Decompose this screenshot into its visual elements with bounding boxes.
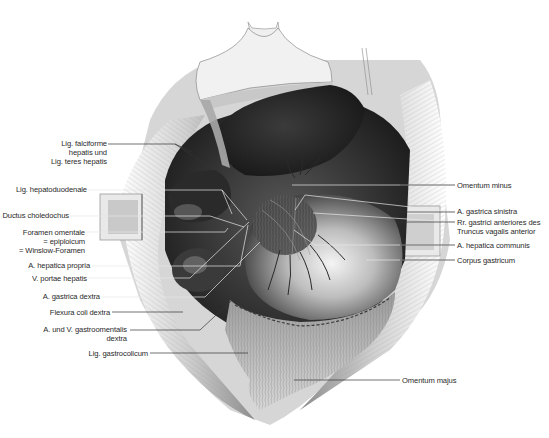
label-omentum-minus: Omentum minus [457,181,511,190]
label-a-hepatica-propria: A. hepatica propria [2,261,90,270]
label-line: = Winslow-Foramen [2,246,85,255]
label-line: Foramen omentale [2,228,85,237]
label-line: A. hepatica propria [2,261,90,270]
retractor-left [100,194,142,240]
label-foramen-omentale: Foramen omentale = epiploicum = Winslow-… [2,228,85,256]
label-v-portae-hepatis: V. portae hepatis [2,274,87,283]
label-omentum-majus: Omentum majus [402,376,456,385]
label-line: A. gastrica sinistra [457,207,517,216]
anatomical-figure: Lig. falciforme hepatis und Lig. teres h… [0,0,549,438]
label-flexura-coli-dextra: Flexura coli dextra [2,308,110,317]
label-line: Omentum majus [402,376,456,385]
label-line: Flexura coli dextra [2,308,110,317]
label-line: hepatis und [2,148,107,157]
label-a-v-gastroomentalis-dextra: A. und V. gastroomentalis dextra [2,325,127,343]
label-line: Lig. falciforme [2,139,107,148]
label-lig-hepatoduodenale: Lig. hepatoduodenale [2,185,87,194]
label-corpus-gastricum: Corpus gastricum [457,256,515,265]
label-lig-falciforme: Lig. falciforme hepatis und Lig. teres h… [2,139,107,167]
label-line: V. portae hepatis [2,274,87,283]
label-a-hepatica-communis: A. hepatica communis [457,241,530,250]
label-line: Lig. hepatoduodenale [2,185,87,194]
label-line: Lig. gastrocolicum [2,349,148,358]
label-line: Truncus vagalis anterior [457,227,540,236]
label-line: Rr. gastrici anteriores des [457,218,540,227]
label-line: dextra [2,334,127,343]
label-line: A. gastrica dextra [2,292,100,301]
label-line: Corpus gastricum [457,256,515,265]
label-ductus-choledochus: Ductus choledochus [2,211,69,220]
label-line: Lig. teres hepatis [2,157,107,166]
label-line: Omentum minus [457,181,511,190]
label-line: = epiploicum [2,237,85,246]
label-a-gastrica-sinistra: A. gastrica sinistra [457,207,517,216]
label-line: A. hepatica communis [457,241,530,250]
label-line: A. und V. gastroomentalis [2,325,127,334]
label-lig-gastrocolicum: Lig. gastrocolicum [2,349,148,358]
label-rr-gastrici-anteriores: Rr. gastrici anteriores des Truncus vaga… [457,218,540,236]
label-line: Ductus choledochus [2,211,69,220]
label-a-gastrica-dextra: A. gastrica dextra [2,292,100,301]
